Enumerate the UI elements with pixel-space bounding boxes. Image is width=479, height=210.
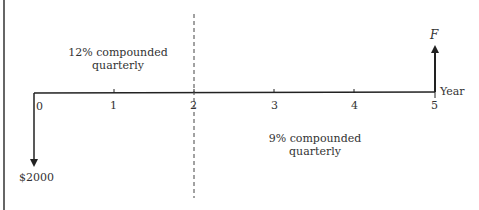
time-axis bbox=[34, 92, 435, 93]
tick-label-3: 3 bbox=[271, 99, 278, 112]
period-2-note: 9% compounded quarterly bbox=[265, 132, 365, 158]
tick-label-0: 0 bbox=[36, 100, 43, 113]
period-1-note-line1: 12% compounded bbox=[68, 46, 168, 59]
period-2-note-line1: 9% compounded bbox=[265, 132, 365, 145]
tick-label-2: 2 bbox=[190, 99, 197, 112]
cash-flow-label-year0: $2000 bbox=[19, 171, 54, 184]
axis-label-year: Year bbox=[440, 85, 465, 98]
period-1-note: 12% compounded quarterly bbox=[68, 46, 168, 72]
up-arrow-icon bbox=[431, 45, 439, 92]
tick-label-1: 1 bbox=[110, 99, 117, 112]
tick-label-4: 4 bbox=[351, 99, 358, 112]
period-1-note-line2: quarterly bbox=[68, 59, 168, 72]
cash-flow-label-year5: F bbox=[430, 29, 438, 42]
period-2-note-line2: quarterly bbox=[265, 145, 365, 158]
tick-label-5: 5 bbox=[431, 99, 438, 112]
cash-flow-diagram bbox=[0, 0, 479, 210]
